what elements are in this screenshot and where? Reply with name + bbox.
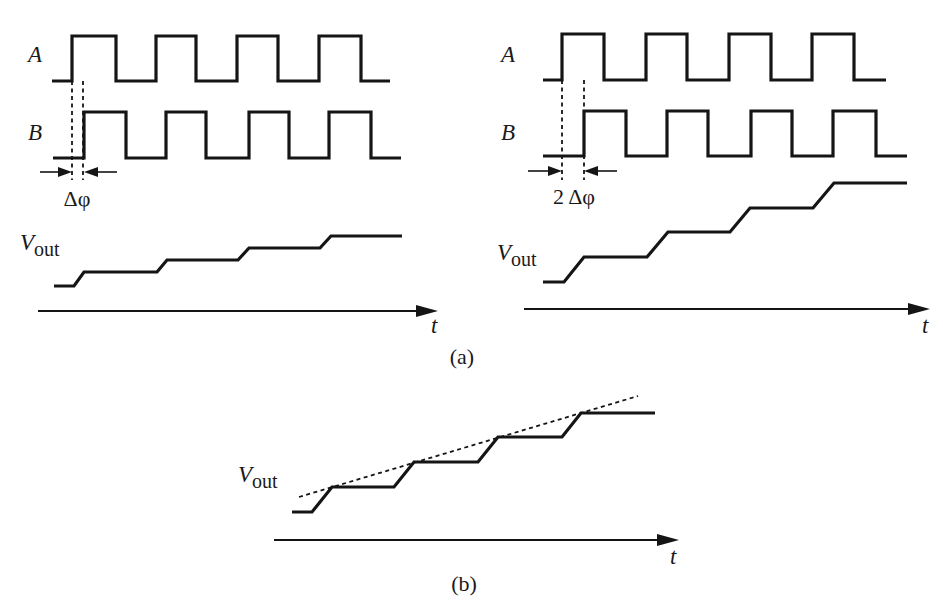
label-A-left: A <box>26 42 43 67</box>
vout-staircase-right <box>543 183 907 282</box>
label-B-right: B <box>501 120 515 145</box>
vout-label-b-sub: out <box>252 470 278 492</box>
time-axis-left <box>38 305 438 317</box>
phase-label-right: 2 Δφ <box>553 184 595 209</box>
panel-a-right: A B 2 Δφ Vout t <box>497 34 930 338</box>
phase-detector-waveform-figure: A B Δφ Vout t A B 2 Δφ Vout t (a) Vout <box>0 0 943 611</box>
vout-label-left-sub: out <box>34 238 60 260</box>
time-axis-b <box>274 534 679 546</box>
vout-staircase-left <box>54 236 402 286</box>
vout-staircase-b <box>292 413 655 512</box>
vout-label-b: Vout <box>238 462 278 492</box>
time-label-b: t <box>670 544 677 569</box>
arrow-left-icon <box>84 167 98 177</box>
panel-b: Vout t <box>238 396 679 569</box>
caption-b: (b) <box>451 571 477 596</box>
signal-B-left <box>53 112 401 158</box>
arrow-right-icon <box>58 167 72 177</box>
time-axis-right <box>524 303 930 315</box>
panel-a-left: A B Δφ Vout t <box>20 36 438 338</box>
signal-A-left <box>52 36 390 81</box>
signal-B-right <box>543 111 907 156</box>
phase-markers-right <box>528 80 617 180</box>
label-A-right: A <box>499 42 516 67</box>
label-B-left: B <box>28 120 42 145</box>
time-label-left: t <box>431 313 438 338</box>
figure-svg: A B Δφ Vout t A B 2 Δφ Vout t (a) Vout <box>0 0 943 611</box>
arrow-left-icon <box>584 166 598 176</box>
time-label-right: t <box>922 313 929 338</box>
phase-label-left: Δφ <box>64 186 91 211</box>
vout-label-left: Vout <box>20 230 60 260</box>
vout-label-right-sub: out <box>511 248 537 270</box>
phase-markers-left <box>40 81 117 180</box>
average-trend-line <box>299 396 638 497</box>
caption-a: (a) <box>450 344 474 369</box>
vout-label-right: Vout <box>497 240 537 270</box>
arrow-right-icon <box>548 166 562 176</box>
signal-A-right <box>543 34 886 80</box>
